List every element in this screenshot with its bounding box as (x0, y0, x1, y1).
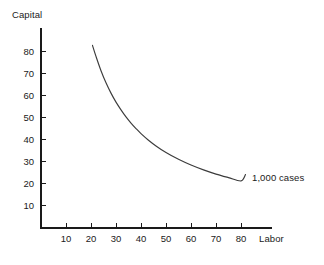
isoquant-chart: Capital Labor 1,000 cases 10203040506070… (0, 0, 324, 265)
y-tick-label: 20 (10, 178, 34, 189)
x-tick-label: 10 (54, 233, 78, 244)
x-tick-label: 70 (204, 233, 228, 244)
curve-annotation-label: 1,000 cases (252, 172, 304, 183)
y-tick-label: 50 (10, 112, 34, 123)
y-axis-title: Capital (12, 9, 42, 20)
x-axis-title: Labor (259, 233, 284, 244)
y-tick-label: 10 (10, 200, 34, 211)
y-tick-label: 60 (10, 90, 34, 101)
x-tick-label: 80 (229, 233, 253, 244)
y-tick-label: 40 (10, 134, 34, 145)
y-tick-label: 70 (10, 68, 34, 79)
x-tick-label: 40 (129, 233, 153, 244)
chart-canvas (0, 0, 324, 265)
y-tick-label: 30 (10, 156, 34, 167)
x-tick-label: 20 (79, 233, 103, 244)
x-tick-label: 50 (154, 233, 178, 244)
x-tick-label: 30 (104, 233, 128, 244)
x-tick-label: 60 (179, 233, 203, 244)
isoquant-curve-1000-cases (93, 45, 246, 181)
y-tick-label: 80 (10, 46, 34, 57)
axis-lines (40, 28, 272, 229)
